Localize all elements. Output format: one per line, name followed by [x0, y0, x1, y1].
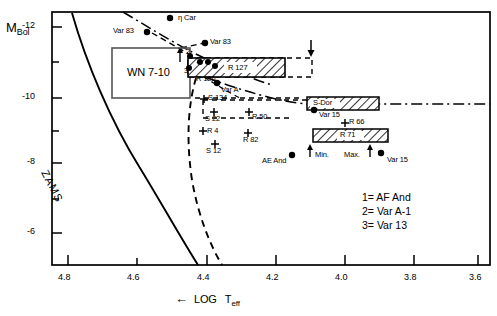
label-num-3: 3: [184, 67, 188, 74]
legend-item-3: 3= Var 13: [362, 218, 411, 232]
label-r4: R 4: [207, 126, 218, 135]
label-s12: S 12: [206, 146, 221, 155]
x-axis-title: ← LOG Teff: [175, 291, 240, 308]
x-tick-3-6: 3.6: [469, 272, 482, 282]
x-tick-4-6: 4.6: [127, 272, 140, 282]
label-num-1: 1: [196, 57, 200, 64]
label-var83-left: Var 83: [113, 26, 134, 35]
label-eta-car: η Car: [178, 13, 196, 22]
point-r126-b: [212, 63, 218, 69]
cross-r4: [199, 127, 207, 135]
dashed-track-curve: [189, 78, 222, 265]
x-tick-4-0: 4.0: [335, 272, 348, 282]
label-r71: R 71: [340, 130, 355, 139]
axis-frame: [52, 12, 490, 265]
arrow-min: [307, 144, 313, 157]
legend-item-1: 1= AF And: [362, 190, 411, 204]
point-eta-car: [167, 15, 173, 21]
label-wn-box: WN 7-10: [127, 66, 170, 78]
label-r126: R 126: [196, 74, 216, 83]
x-tick-4-8: 4.8: [58, 272, 71, 282]
y-tick--8: -8: [27, 156, 35, 166]
label-s134: S 134: [208, 93, 227, 102]
y-tick--10: -10: [22, 91, 35, 101]
label-s22: S 22: [205, 114, 220, 123]
arrow-max: [367, 144, 373, 157]
cross-s134: [200, 95, 208, 103]
y-tick--6: -6: [27, 226, 35, 236]
label-max: Max.: [344, 150, 360, 159]
point-var15-upper: [311, 107, 317, 113]
label-var15-upper: Var 15: [319, 110, 340, 119]
point-var83-left: [144, 29, 150, 35]
label-r50: R 50: [252, 112, 267, 121]
label-num-2: 2: [186, 48, 190, 55]
left-arrow-icon: ←: [175, 291, 188, 306]
label-r82: R 82: [243, 135, 258, 144]
point-var83-right: [202, 40, 208, 46]
cross-r66: [341, 119, 349, 127]
x-axis-ticks: [68, 255, 478, 265]
point-r126-a: [205, 59, 211, 65]
plot-canvas: [0, 0, 497, 316]
arrow-up-cluster: [177, 47, 183, 62]
x-tick-4-2: 4.2: [266, 272, 279, 282]
label-var15-lower: Var 15: [387, 155, 408, 164]
label-r127: R 127: [228, 63, 248, 72]
legend-item-2: 2= Var A-1: [362, 204, 411, 218]
legend: 1= AF And 2= Var A-1 3= Var 13: [362, 190, 411, 232]
arrow-down-r127: [308, 40, 315, 57]
x-tick-4-4: 4.4: [197, 272, 210, 282]
x-tick-3-8: 3.8: [404, 272, 417, 282]
label-min: Min.: [315, 150, 329, 159]
label-ae-and: AE And: [262, 156, 286, 165]
point-ae-and: [289, 152, 295, 158]
label-sdor: S-Dor: [313, 98, 332, 107]
label-r66: R 66: [349, 117, 364, 126]
y-tick--12: -12: [22, 20, 35, 30]
hr-diagram-figure: MBol -12 -10 -8 -6 4.8 4.6 4.4 4.2 4.0 3…: [0, 0, 497, 316]
point-var15-lower: [378, 150, 384, 156]
label-var83-right: Var 83: [210, 37, 231, 46]
